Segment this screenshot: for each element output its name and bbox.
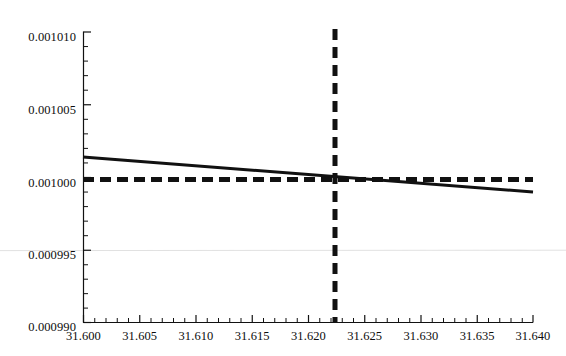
x-tick-label: 31.610 [164, 329, 228, 344]
solid-data-line [83, 157, 533, 192]
x-tick-label: 31.640 [501, 329, 565, 344]
x-tick-label: 31.605 [108, 329, 172, 344]
x-tick-label: 31.630 [389, 329, 453, 344]
plot-canvas [0, 0, 566, 356]
chart-figure: 0.001010 0.001005 0.001000 0.000995 0.00… [0, 0, 566, 356]
y-tick-label: 0.001000 [10, 176, 76, 191]
x-tick-label: 31.615 [220, 329, 284, 344]
y-tick-label: 0.000995 [10, 248, 76, 263]
y-tick-label: 0.001005 [10, 103, 76, 118]
y-tick-label: 0.001010 [10, 30, 76, 45]
x-tick-label: 31.600 [52, 329, 116, 344]
x-tick-label: 31.635 [445, 329, 509, 344]
x-tick-label: 31.625 [333, 329, 397, 344]
x-tick-label: 31.620 [277, 329, 341, 344]
